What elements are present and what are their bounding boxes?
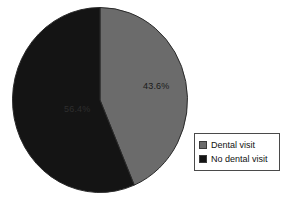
legend-swatch-black-icon bbox=[199, 155, 207, 163]
legend-label-dental-visit: Dental visit bbox=[211, 141, 255, 150]
chart-legend: Dental visit No dental visit bbox=[194, 133, 280, 171]
legend-label-no-dental-visit: No dental visit bbox=[211, 155, 268, 164]
legend-swatch-gray-icon bbox=[199, 141, 207, 149]
pie-graphic: 43.6% 56.4% bbox=[12, 7, 188, 193]
legend-item-no-dental-visit[interactable]: No dental visit bbox=[199, 152, 274, 166]
pie-svg bbox=[12, 7, 188, 193]
legend-item-dental-visit[interactable]: Dental visit bbox=[199, 138, 274, 152]
pie-chart: 43.6% 56.4% Dental visit No dental visit bbox=[0, 0, 284, 202]
